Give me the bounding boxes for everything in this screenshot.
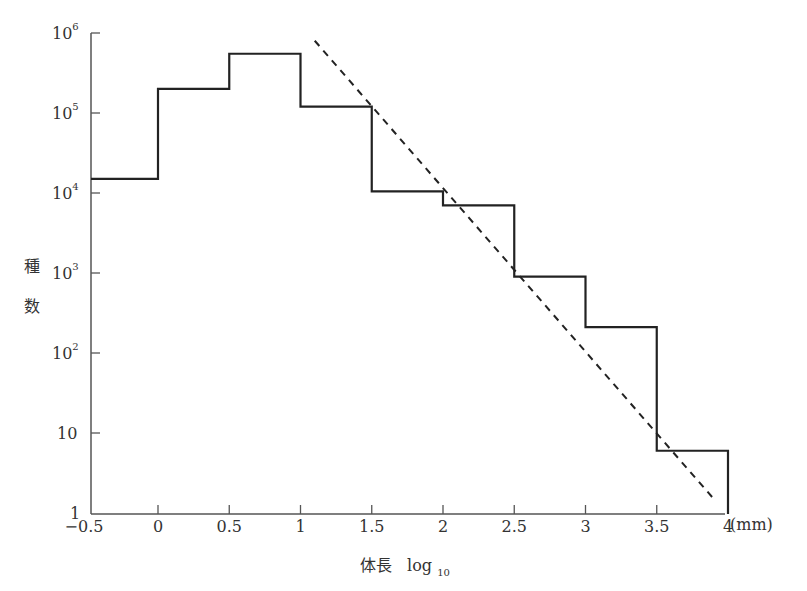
x-axis-title-subscript: 10 bbox=[437, 567, 450, 578]
x-tick-label: 3 bbox=[580, 517, 590, 536]
y-axis-title-char-1: 種 bbox=[24, 257, 40, 276]
x-tick-label: 3.5 bbox=[644, 517, 669, 536]
y-tick-label: 106 bbox=[52, 21, 79, 43]
x-tick-label: 0.5 bbox=[217, 517, 242, 536]
y-tick-label: 103 bbox=[52, 261, 79, 283]
x-axis-ticks: −0.500.511.522.533.54 bbox=[65, 505, 734, 536]
x-tick-label: −0.5 bbox=[65, 517, 104, 536]
x-axis-title-main: 体長 bbox=[360, 556, 392, 575]
y-tick-label: 105 bbox=[52, 101, 79, 123]
chart: 106105104103102101 −0.500.511.522.533.54… bbox=[0, 0, 807, 591]
x-tick-label: 2.5 bbox=[502, 517, 527, 536]
dashed-trend-line bbox=[315, 41, 714, 499]
y-axis-title-char-2: 数 bbox=[24, 297, 40, 316]
y-tick-label: 102 bbox=[52, 341, 79, 363]
x-tick-label: 2 bbox=[438, 517, 448, 536]
y-tick-label: 10 bbox=[57, 424, 77, 443]
x-axis-unit: (mm) bbox=[730, 515, 773, 534]
x-axis-title: 体長 log 10 bbox=[360, 556, 450, 578]
y-axis-ticks: 106105104103102101 bbox=[52, 21, 100, 523]
x-tick-label: 1.5 bbox=[359, 517, 384, 536]
y-tick-label: 104 bbox=[52, 181, 79, 203]
x-axis-title-log: log bbox=[407, 556, 432, 575]
histogram-step-line bbox=[91, 54, 728, 514]
x-tick-label: 0 bbox=[153, 517, 163, 536]
x-tick-label: 1 bbox=[295, 517, 305, 536]
axes bbox=[91, 33, 725, 514]
